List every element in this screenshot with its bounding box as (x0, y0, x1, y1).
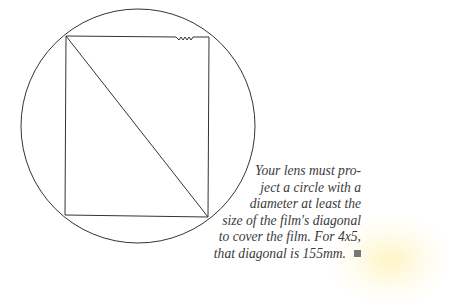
caption-line: size of the film's diagonal (121, 213, 361, 230)
caption-line: diameter at least the (121, 196, 361, 213)
caption-line: Your lens must pro- (121, 163, 361, 180)
caption-line: to cover the film. For 4x5, (121, 229, 361, 246)
caption-line: ject a circle with a (121, 180, 361, 197)
caption: Your lens must pro- ject a circle with a… (121, 163, 361, 263)
caption-line: that diagonal is 155mm. (214, 246, 346, 261)
end-mark-icon (354, 250, 361, 257)
